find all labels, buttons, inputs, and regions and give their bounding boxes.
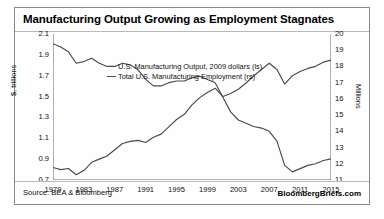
legend-label-output: U.S. Manufacturing Output, 2009 dollars … <box>118 62 262 72</box>
footer-divider <box>15 181 369 182</box>
right-axis-tick-label: 15 <box>335 110 361 119</box>
series-canvas <box>53 34 331 180</box>
left-axis-tick-label: 2.1 <box>23 29 49 38</box>
right-axis-tick-label: 14 <box>335 126 361 135</box>
right-axis-tick-label: 17 <box>335 78 361 87</box>
legend-item-output: U.S. Manufacturing Output, 2009 dollars … <box>107 62 262 72</box>
source-note: Source: BEA & Bloomberg <box>23 188 112 197</box>
left-axis-tick-label: 0.7 <box>23 175 49 184</box>
left-axis-title: $, trillions <box>9 65 18 96</box>
legend-swatch-employment-icon <box>107 76 116 77</box>
right-axis-tick-label: 16 <box>335 94 361 103</box>
chart-legend: U.S. Manufacturing Output, 2009 dollars … <box>107 62 262 81</box>
chart-title: Manufacturing Output Growing as Employme… <box>23 13 334 25</box>
chart-svg <box>53 34 331 180</box>
brand-label: BloombergBriefs.com <box>277 189 361 198</box>
left-axis-tick-label: 1.5 <box>23 92 49 101</box>
legend-label-employment: Total U.S. Manufacturing Employment (rs) <box>118 72 255 82</box>
right-axis-tick-label: 19 <box>335 45 361 54</box>
right-axis-tick-label: 20 <box>335 29 361 38</box>
axis-lines <box>53 34 331 180</box>
chart-card: Manufacturing Output Growing as Employme… <box>14 7 370 205</box>
right-axis-tick-label: 11 <box>335 175 361 184</box>
right-axis-tick-label: 12 <box>335 159 361 168</box>
x-axis-tick-label: 1991 <box>131 185 161 194</box>
x-axis-tick-label: 2003 <box>223 185 253 194</box>
tick-marks <box>53 34 331 180</box>
right-axis-tick-label: 18 <box>335 61 361 70</box>
legend-swatch-output-icon <box>107 66 116 67</box>
legend-item-employment: Total U.S. Manufacturing Employment (rs) <box>107 72 262 82</box>
left-axis-tick-label: 0.9 <box>23 154 49 163</box>
left-axis-tick-label: 1.3 <box>23 112 49 121</box>
plot-area: $, trillions Millions 2.11.91.71.51.31.1… <box>15 32 369 182</box>
left-axis-tick-label: 1.1 <box>23 133 49 142</box>
x-axis-tick-label: 1995 <box>162 185 192 194</box>
x-axis-tick-label: 1999 <box>192 185 222 194</box>
left-axis-tick-label: 1.7 <box>23 71 49 80</box>
left-axis-tick-label: 1.9 <box>23 50 49 59</box>
right-axis-tick-label: 13 <box>335 143 361 152</box>
